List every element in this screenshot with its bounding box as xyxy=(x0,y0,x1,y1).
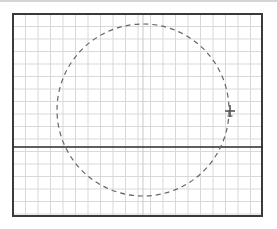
aircraft-crosshair-icon[interactable] xyxy=(225,105,235,117)
grid-lines xyxy=(13,14,262,216)
plot-canvas xyxy=(0,0,277,229)
